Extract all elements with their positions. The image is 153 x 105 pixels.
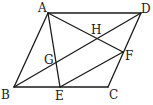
segment-BD <box>14 13 141 87</box>
label-C: C <box>109 88 118 102</box>
label-F: F <box>125 49 133 63</box>
label-B: B <box>1 88 10 102</box>
label-G: G <box>44 53 54 67</box>
geometry-diagram: A D B C E F G H <box>0 0 153 105</box>
label-H: H <box>91 23 101 37</box>
segment-AE <box>48 13 60 87</box>
segment-AF <box>48 13 123 52</box>
label-E: E <box>55 89 64 103</box>
segment-AB <box>14 13 48 87</box>
label-D: D <box>141 2 151 16</box>
label-A: A <box>37 1 47 15</box>
segment-EF <box>60 52 123 87</box>
